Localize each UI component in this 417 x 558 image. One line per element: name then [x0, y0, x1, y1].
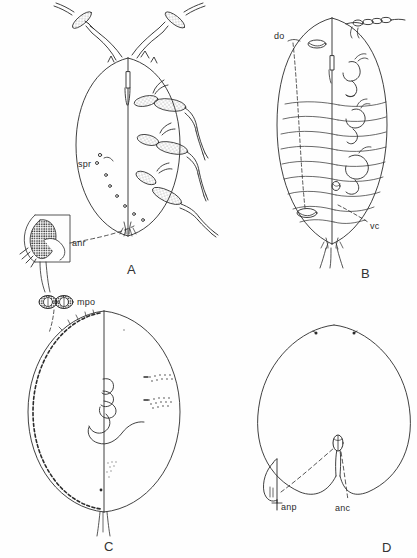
panel-letter-d: D: [382, 540, 392, 555]
panel-c-drawing: [28, 296, 180, 537]
label-mpo: mpo: [77, 297, 95, 307]
panel-letter-b: B: [361, 266, 370, 281]
panel-letter-a: A: [127, 262, 136, 277]
label-anc: anc: [335, 503, 350, 513]
panel-letter-c: C: [104, 539, 114, 554]
label-do: do: [274, 31, 284, 41]
label-anr: anr: [72, 238, 86, 248]
panel-a-drawing: [20, 3, 218, 292]
panel-d-drawing: [258, 325, 411, 510]
label-spr: spr: [78, 159, 91, 169]
label-anp: anp: [281, 502, 297, 512]
figure-plate: spr anr do vc mpo anp anc A B C D: [0, 0, 417, 558]
label-vc: vc: [370, 221, 379, 231]
figure-drawing: [0, 0, 417, 558]
panel-b-drawing: [277, 17, 405, 268]
